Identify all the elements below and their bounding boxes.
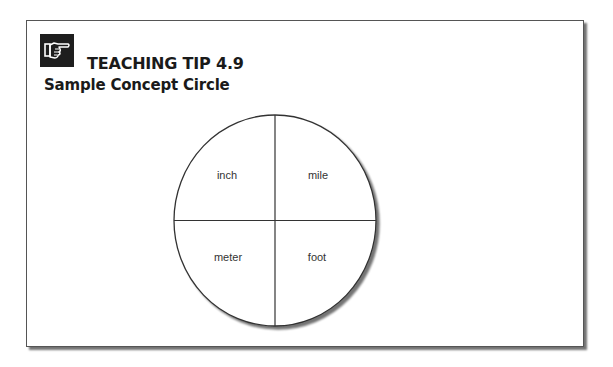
concept-circle <box>0 0 613 367</box>
quadrant-label-bottom-right: foot <box>308 251 326 263</box>
quadrant-label-top-left: inch <box>217 169 237 181</box>
quadrant-label-bottom-left: meter <box>214 251 242 263</box>
quadrant-label-top-right: mile <box>308 169 328 181</box>
